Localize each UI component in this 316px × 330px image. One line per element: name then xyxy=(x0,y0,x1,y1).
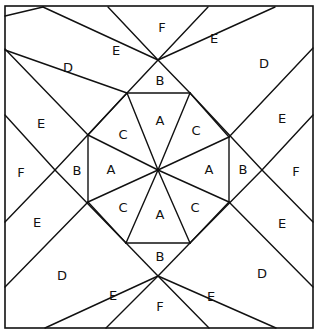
piece-label-b: B xyxy=(156,73,165,88)
piece-label-e: E xyxy=(109,288,117,303)
piece-label-e: E xyxy=(278,216,286,231)
piece-label-f: F xyxy=(17,165,24,180)
piece-label-b: B xyxy=(239,162,248,177)
piece-label-d: D xyxy=(259,56,269,71)
piece-label-b: B xyxy=(73,163,82,178)
piece-label-b: B xyxy=(156,249,165,264)
piece-label-e: E xyxy=(278,111,286,126)
piece-label-f: F xyxy=(156,299,163,314)
piece-label-a: A xyxy=(205,162,214,177)
piece-label-d: D xyxy=(257,266,267,281)
quilt-block-diagram: FEEDDBACCEEFBAABFCACEEBDDEEF xyxy=(0,0,316,330)
piece-label-c: C xyxy=(118,200,127,215)
piece-label-d: D xyxy=(57,268,67,283)
piece-label-e: E xyxy=(207,289,215,304)
piece-label-a: A xyxy=(156,207,165,222)
piece-label-f: F xyxy=(292,164,299,179)
piece-label-e: E xyxy=(37,116,45,131)
piece-label-e: E xyxy=(33,215,41,230)
piece-label-e: E xyxy=(210,31,218,46)
piece-label-a: A xyxy=(107,162,116,177)
piece-label-c: C xyxy=(118,127,127,142)
piece-label-a: A xyxy=(156,113,165,128)
piece-label-c: C xyxy=(190,200,199,215)
diagram-background xyxy=(0,0,316,330)
piece-label-c: C xyxy=(191,123,200,138)
piece-label-d: D xyxy=(63,60,73,75)
piece-label-e: E xyxy=(112,43,120,58)
piece-label-f: F xyxy=(158,20,165,35)
